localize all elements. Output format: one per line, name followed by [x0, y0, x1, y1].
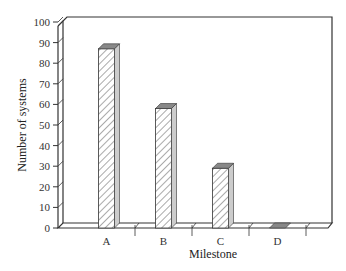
y-tick-label: 20 — [39, 181, 51, 193]
x-tick-label: C — [217, 235, 224, 247]
y-tick-label: 70 — [39, 78, 51, 90]
x-tick-label: A — [103, 235, 111, 247]
y-tick-label: 100 — [34, 16, 51, 28]
y-axis-title: Number of systems — [15, 78, 29, 172]
y-tick-label: 40 — [39, 140, 51, 152]
y-tick-label: 30 — [39, 160, 51, 172]
y-tick-label: 60 — [39, 98, 51, 110]
bar-chart: 0102030405060708090100 ABCD Number of sy… — [0, 0, 346, 271]
bar-C — [213, 163, 234, 228]
y-tick-label: 80 — [39, 57, 51, 69]
bar-B — [156, 104, 177, 228]
y-tick-label: 90 — [39, 37, 51, 49]
y-axis: 0102030405060708090100 — [34, 16, 64, 234]
y-tick-label: 10 — [39, 201, 51, 213]
y-tick-label: 0 — [45, 222, 51, 234]
x-tick-label: B — [160, 235, 167, 247]
bar-A — [99, 44, 120, 228]
y-tick-label: 50 — [39, 119, 51, 131]
x-axis-title: Milestone — [189, 247, 237, 261]
x-tick-label: D — [274, 235, 282, 247]
bars — [99, 44, 291, 228]
